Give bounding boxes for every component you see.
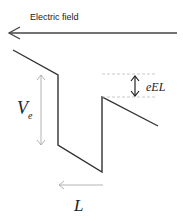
electric-field-arrow (9, 27, 177, 39)
potential-profile-line (13, 50, 158, 172)
ve-double-arrow (37, 75, 45, 145)
ve-main: V (17, 98, 28, 118)
ve-subscript: e (28, 110, 32, 121)
eel-label: eEL (146, 80, 165, 95)
l-arrow (59, 181, 103, 189)
ve-label: Ve (17, 98, 32, 119)
electric-field-label: Electric field (30, 12, 79, 22)
l-label: L (74, 196, 83, 216)
potential-diagram: Electric field Ve eEL L (0, 0, 183, 221)
eel-double-arrow (131, 76, 139, 96)
